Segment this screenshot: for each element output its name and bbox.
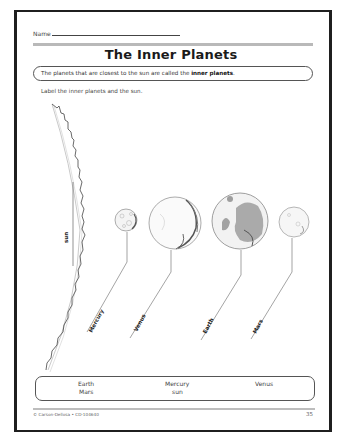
word-bank-item: Mercury	[165, 380, 189, 387]
solar-system-diagram: sun Mercury Venus Earth Mars	[0, 0, 342, 441]
mercury-label: Mercury	[88, 308, 106, 334]
mars-icon	[279, 207, 309, 237]
word-bank: Earth Mars Mercury sun Venus	[35, 376, 315, 401]
sun-label: sun	[63, 232, 69, 243]
word-bank-item: Earth	[78, 380, 94, 387]
word-bank-item: Venus	[255, 380, 273, 387]
word-bank-item: sun	[172, 388, 183, 395]
mercury-label-line	[87, 232, 127, 332]
footer-rule	[33, 408, 315, 410]
mercury-icon	[115, 209, 137, 231]
venus-icon	[149, 197, 201, 249]
venus-label: Venus	[133, 312, 147, 332]
earth-label: Earth	[202, 317, 215, 335]
word-bank-item: Mars	[79, 388, 93, 395]
earth-icon	[212, 193, 268, 249]
page-number: 35	[306, 411, 313, 417]
copyright-text: © Carson-Dellosa • CD-104640	[33, 412, 99, 417]
